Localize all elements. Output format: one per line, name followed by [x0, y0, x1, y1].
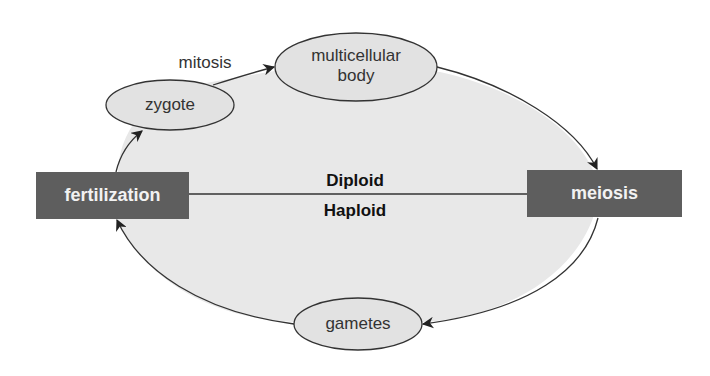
gametes-label: gametes: [308, 314, 408, 334]
meiosis-label: meiosis: [571, 183, 638, 204]
fertilization-label: fertilization: [64, 185, 160, 206]
zygote-label: zygote: [120, 95, 220, 115]
mitosis-label: mitosis: [160, 53, 250, 73]
body-label: body: [296, 66, 416, 86]
multicellular-label: multicellular: [296, 46, 416, 66]
haploid-label: Haploid: [305, 201, 405, 221]
diploid-label: Diploid: [305, 171, 405, 191]
fertilization-box: fertilization: [36, 172, 189, 219]
meiosis-box: meiosis: [527, 170, 682, 217]
